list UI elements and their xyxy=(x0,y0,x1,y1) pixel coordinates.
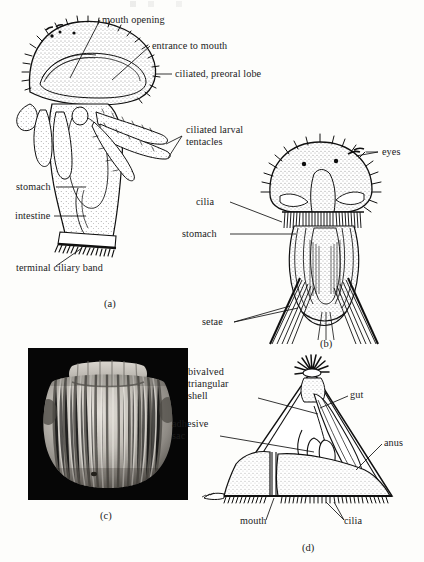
label-entrance-to-mouth: entrance to mouth xyxy=(152,40,227,51)
label-adhesive-sac-line2: sac xyxy=(172,430,185,441)
panel-d-drawing xyxy=(196,352,424,562)
label-setae: setae xyxy=(202,316,223,327)
panel-letter-b: (b) xyxy=(320,338,332,349)
label-adhesive-sac-line1: adhesive xyxy=(172,418,208,429)
eyespot-left xyxy=(302,162,306,166)
panel-d: bivalved triangular shell gut adhesive s… xyxy=(196,352,424,562)
panel-letter-c: (c) xyxy=(100,510,112,521)
label-eyes: eyes xyxy=(382,146,401,157)
label-intestine: intestine xyxy=(15,210,50,221)
figure-page: mouth opening entrance to mouth ciliated… xyxy=(0,0,424,562)
panel-b-drawing xyxy=(236,130,424,345)
panel-c-micrograph xyxy=(28,348,188,500)
label-mouth: mouth xyxy=(240,515,267,526)
label-cilia-b: cilia xyxy=(196,196,214,207)
panel-letter-a: (a) xyxy=(104,298,116,309)
panel-letter-d: (d) xyxy=(302,542,314,553)
label-bivalved-shell-line2: triangular xyxy=(188,378,229,389)
label-stomach-b: stomach xyxy=(182,228,217,239)
panel-c-image xyxy=(28,348,188,500)
label-gut: gut xyxy=(350,389,363,400)
label-ciliated-larval-tentacles-line2: tentacles xyxy=(186,136,223,147)
label-bivalved-shell-line3: shell xyxy=(188,390,208,401)
label-terminal-ciliary-band: terminal ciliary band xyxy=(16,262,103,273)
eyespot-right xyxy=(334,159,338,163)
label-stomach-a: stomach xyxy=(16,181,51,192)
panel-a: mouth opening entrance to mouth ciliated… xyxy=(0,0,210,300)
label-bivalved-shell-line1: bivalved xyxy=(188,366,224,377)
label-ciliated-larval-tentacles-line1: ciliated larval xyxy=(186,124,243,135)
label-ciliated-preoral-lobe: ciliated, preoral lobe xyxy=(175,68,261,79)
label-mouth-opening: mouth opening xyxy=(102,14,165,25)
label-anus: anus xyxy=(384,437,403,448)
panel-b: eyes cilia stomach setae (b) xyxy=(236,130,424,345)
label-cilia-d: cilia xyxy=(344,515,362,526)
